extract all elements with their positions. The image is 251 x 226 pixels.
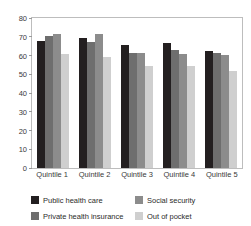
y-axis-tick: 60 bbox=[19, 51, 32, 60]
bar bbox=[171, 50, 179, 168]
legend-item: Social security bbox=[135, 196, 239, 205]
x-axis-labels: Quintile 1Quintile 2Quintile 3Quintile 4… bbox=[31, 170, 243, 182]
bar bbox=[187, 66, 195, 168]
legend-swatch-icon bbox=[135, 212, 143, 220]
legend-label: Private health insurance bbox=[43, 212, 123, 221]
legend-item: Public health care bbox=[31, 196, 135, 205]
x-axis-label: Quintile 3 bbox=[121, 170, 153, 179]
y-axis-tick: 10 bbox=[19, 145, 32, 154]
chart-legend: Public health careSocial securityPrivate… bbox=[31, 192, 243, 224]
bar bbox=[129, 53, 137, 168]
bar bbox=[121, 45, 129, 168]
bar bbox=[145, 66, 153, 168]
legend-label: Social security bbox=[147, 196, 195, 205]
legend-item: Private health insurance bbox=[31, 212, 135, 221]
bar bbox=[45, 36, 53, 168]
bar-group bbox=[79, 18, 111, 168]
bar bbox=[137, 53, 145, 168]
y-axis-tick: 20 bbox=[19, 126, 32, 135]
bar-group bbox=[163, 18, 195, 168]
bar bbox=[95, 34, 103, 168]
bar bbox=[37, 41, 45, 168]
y-axis-tick: 70 bbox=[19, 32, 32, 41]
bar bbox=[205, 51, 213, 168]
bar bbox=[229, 71, 237, 169]
bar bbox=[179, 54, 187, 168]
bar-groups bbox=[32, 18, 242, 168]
legend-label: Out of pocket bbox=[147, 212, 192, 221]
plot-area: 80706050403020100 bbox=[31, 17, 243, 169]
legend-swatch-icon bbox=[31, 196, 39, 204]
legend-swatch-icon bbox=[31, 212, 39, 220]
y-axis-tick: 80 bbox=[19, 14, 32, 23]
legend-item: Out of pocket bbox=[135, 212, 239, 221]
bar bbox=[103, 57, 111, 168]
bar bbox=[213, 53, 221, 168]
bar-chart: 80706050403020100 Quintile 1Quintile 2Qu… bbox=[0, 0, 251, 226]
bar bbox=[53, 34, 61, 168]
legend-label: Public health care bbox=[43, 196, 103, 205]
y-axis-tick: 30 bbox=[19, 107, 32, 116]
x-axis-label: Quintile 2 bbox=[79, 170, 111, 179]
y-axis-tick: 50 bbox=[19, 70, 32, 79]
bar-group bbox=[121, 18, 153, 168]
bar bbox=[221, 55, 229, 168]
bar bbox=[61, 54, 69, 168]
bar bbox=[79, 38, 87, 168]
x-axis-label: Quintile 4 bbox=[164, 170, 196, 179]
x-axis-label: Quintile 1 bbox=[36, 170, 68, 179]
bar bbox=[163, 43, 171, 168]
x-axis-label: Quintile 5 bbox=[206, 170, 238, 179]
legend-swatch-icon bbox=[135, 196, 143, 204]
bar bbox=[87, 42, 95, 168]
y-axis-tick: 40 bbox=[19, 89, 32, 98]
bar-group bbox=[37, 18, 69, 168]
bar-group bbox=[205, 18, 237, 168]
